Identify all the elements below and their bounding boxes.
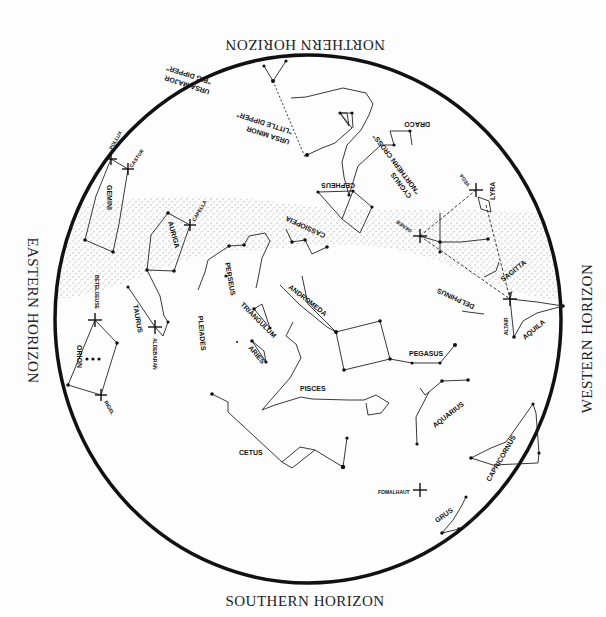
star-dots [66, 59, 565, 534]
label-andromeda: ANDROMEDA [287, 283, 328, 317]
label-gemini: GEMINI [106, 185, 113, 210]
altair-star-icon [503, 292, 517, 306]
label-perseus: PERSEUS [224, 262, 237, 296]
label-betelgeuse: BETELGEUSE [94, 275, 100, 310]
star-map: URSA MAJOR "BIG DIPPER" URSA MINOR "LITT… [0, 0, 606, 617]
pegasus-lines [336, 321, 390, 370]
pisces-lines [262, 322, 389, 415]
cetus-lines [212, 394, 347, 467]
label-grus: GRUS [434, 506, 455, 524]
label-aquila: AQUILA [521, 318, 547, 341]
label-aldebaran: ALDEBARAN [152, 338, 158, 370]
label-draco: DRACO [404, 121, 430, 128]
andromeda-lines [280, 285, 336, 332]
taurus-lines [128, 270, 168, 336]
rigel-star-icon [95, 389, 107, 401]
label-pleiades: PLEIADES [197, 315, 207, 351]
label-cetus: CETUS [239, 449, 263, 456]
label-pegasus: PEGASUS [409, 350, 444, 357]
label-altair: ALTAIR [503, 317, 509, 335]
label-pisces: PISCES [300, 385, 326, 392]
aquarius-lines [416, 380, 468, 444]
label-castor: CASTOR [128, 148, 145, 169]
label-cepheus: CEPHEUS [321, 182, 355, 189]
label-orion: ORION [76, 345, 83, 368]
label-aquarius: AQUARIUS [431, 400, 466, 429]
label-aries: ARIES [247, 344, 266, 365]
fomalhaut-star-icon [413, 483, 427, 497]
label-vega: VEGA [458, 173, 471, 188]
label-lyra: LYRA [489, 182, 496, 200]
label-fomalhaut: FOMALHAUT [378, 489, 410, 495]
label-rigel: RIGEL [103, 400, 116, 416]
horizon-circle [55, 55, 561, 583]
pollux-star-icon [105, 153, 117, 165]
label-delphinus: DELPHINUS [436, 287, 476, 311]
